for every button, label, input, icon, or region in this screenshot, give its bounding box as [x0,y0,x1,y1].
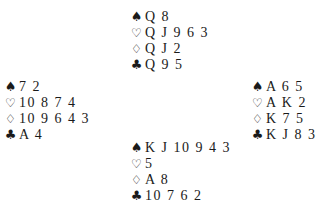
north-hearts-cards: Q J 9 6 3 [145,25,209,41]
east-hearts-cards: A K 2 [266,95,307,111]
diamond-icon: ♢ [251,111,264,127]
spade-icon: ♠ [251,79,264,95]
north-diamonds-cards: Q J 2 [145,41,182,57]
north-diamonds-row: ♢ Q J 2 [130,41,209,57]
east-spades-cards: A 6 5 [266,79,304,95]
south-diamonds-cards: A 8 [145,172,169,188]
club-icon: ♣ [130,57,143,73]
diamond-icon: ♢ [4,111,17,127]
west-hearts-cards: 10 8 7 4 [19,95,77,111]
spade-icon: ♠ [4,79,17,95]
diamond-icon: ♢ [130,41,143,57]
east-clubs-cards: K J 8 3 [266,127,317,143]
east-spades-row: ♠ A 6 5 [251,79,317,95]
west-clubs-row: ♣ A 4 [4,127,90,143]
west-diamonds-cards: 10 9 6 4 3 [19,111,90,127]
spade-icon: ♠ [130,9,143,25]
heart-icon: ♡ [130,156,143,172]
south-clubs-row: ♣ 10 7 6 2 [130,188,231,204]
north-spades-cards: Q 8 [145,9,170,25]
north-hearts-row: ♡ Q J 9 6 3 [130,25,209,41]
west-spades-cards: 7 2 [19,79,41,95]
north-clubs-row: ♣ Q 9 5 [130,57,209,73]
south-hearts-cards: 5 [145,156,154,172]
spade-icon: ♠ [130,140,143,156]
heart-icon: ♡ [251,95,264,111]
club-icon: ♣ [130,188,143,204]
north-clubs-cards: Q 9 5 [145,57,184,73]
club-icon: ♣ [4,127,17,143]
south-clubs-cards: 10 7 6 2 [145,188,203,204]
west-hand: ♠ 7 2 ♡ 10 8 7 4 ♢ 10 9 6 4 3 ♣ A 4 [4,79,90,143]
north-spades-row: ♠ Q 8 [130,9,209,25]
east-hand: ♠ A 6 5 ♡ A K 2 ♢ K 7 5 ♣ K J 8 3 [251,79,317,143]
south-spades-row: ♠ K J 10 9 4 3 [130,140,231,156]
west-spades-row: ♠ 7 2 [4,79,90,95]
east-diamonds-row: ♢ K 7 5 [251,111,317,127]
east-hearts-row: ♡ A K 2 [251,95,317,111]
west-clubs-cards: A 4 [19,127,43,143]
south-hearts-row: ♡ 5 [130,156,231,172]
north-hand: ♠ Q 8 ♡ Q J 9 6 3 ♢ Q J 2 ♣ Q 9 5 [130,9,209,73]
heart-icon: ♡ [130,25,143,41]
club-icon: ♣ [251,127,264,143]
south-spades-cards: K J 10 9 4 3 [145,140,231,156]
south-hand: ♠ K J 10 9 4 3 ♡ 5 ♢ A 8 ♣ 10 7 6 2 [130,140,231,204]
west-hearts-row: ♡ 10 8 7 4 [4,95,90,111]
west-diamonds-row: ♢ 10 9 6 4 3 [4,111,90,127]
heart-icon: ♡ [4,95,17,111]
east-clubs-row: ♣ K J 8 3 [251,127,317,143]
east-diamonds-cards: K 7 5 [266,111,305,127]
south-diamonds-row: ♢ A 8 [130,172,231,188]
diamond-icon: ♢ [130,172,143,188]
